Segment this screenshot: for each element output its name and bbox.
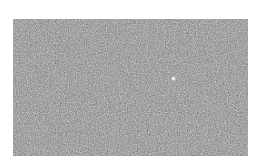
noise-pattern [13, 19, 248, 156]
noise-texture-image [13, 19, 248, 156]
bright-spot [172, 77, 175, 80]
